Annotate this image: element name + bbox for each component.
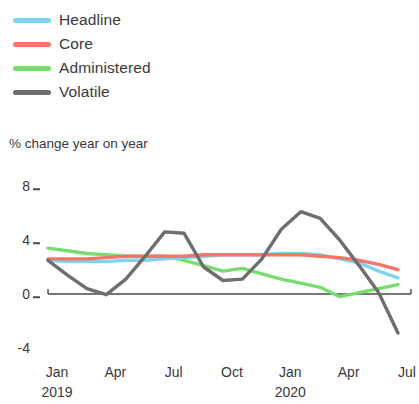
y-tick-label: -4 — [2, 340, 30, 356]
y-tick-label: 0 — [2, 286, 30, 302]
x-tick-label: Apr — [104, 364, 126, 380]
x-tick-label: Apr — [338, 364, 360, 380]
x-tick-label: Jul — [398, 364, 416, 380]
x-tick-year-label: 2019 — [41, 384, 72, 400]
x-tick-label: Jan — [279, 364, 302, 380]
x-tick-year-label: 2020 — [275, 384, 306, 400]
plot-area: 840-4 Jan2019AprJulOctJan2020AprJul — [0, 0, 419, 404]
chart-figure: Headline Core Administered Volatile % ch… — [0, 0, 419, 404]
x-tick-label: Oct — [221, 364, 243, 380]
x-tick-label: Jan — [46, 364, 69, 380]
x-tick-label: Jul — [165, 364, 183, 380]
plot-svg — [0, 0, 419, 404]
y-tick-label: 4 — [2, 232, 30, 248]
y-tick-dash — [33, 296, 40, 298]
y-tick-dash — [33, 188, 40, 190]
y-tick-dash — [33, 242, 40, 244]
y-tick-label: 8 — [2, 178, 30, 194]
